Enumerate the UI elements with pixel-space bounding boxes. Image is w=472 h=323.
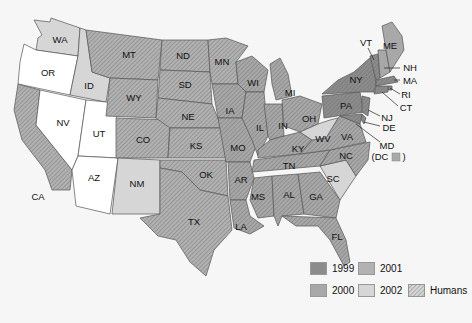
label-AZ: AZ (88, 172, 100, 183)
label-PA: PA (340, 100, 353, 111)
label-WV: WV (315, 133, 331, 144)
label-NM: NM (130, 178, 145, 189)
swatch-2001 (358, 262, 375, 275)
label-RI: RI (401, 89, 411, 100)
label-FL: FL (331, 231, 342, 242)
label-LA: LA (235, 221, 247, 232)
label-NV: NV (56, 117, 70, 128)
label-ME: ME (383, 40, 397, 51)
legend-label-humans: Humans (430, 285, 467, 296)
legend-item-2001: 2001 (358, 262, 402, 275)
swatch-2002 (358, 284, 375, 297)
label-ID: ID (84, 80, 94, 91)
label-MT: MT (122, 49, 136, 60)
legend-label-2001: 2001 (380, 263, 402, 274)
label-IA: IA (226, 105, 236, 116)
label-TX: TX (188, 216, 201, 227)
legend-label-1999: 1999 (332, 263, 354, 274)
label-DC: (DC (372, 151, 389, 162)
label-UT: UT (93, 128, 106, 139)
label-OK: OK (199, 169, 213, 180)
label-WY: WY (126, 92, 142, 103)
label-NY: NY (349, 74, 363, 85)
legend-item-humans: Humans (408, 284, 472, 297)
label-MA: MA (403, 75, 418, 86)
label-KY: KY (292, 143, 305, 154)
label-DC-close: ) (402, 151, 405, 162)
label-AL: AL (283, 189, 295, 200)
label-WI: WI (247, 77, 259, 88)
dc-swatch (392, 153, 400, 161)
label-GA: GA (309, 191, 323, 202)
label-KS: KS (190, 140, 203, 151)
state-AZ (72, 156, 118, 214)
legend-item-2002: 2002 (358, 284, 402, 297)
label-OR: OR (41, 67, 55, 78)
label-TN: TN (283, 160, 296, 171)
label-MD: MD (380, 140, 395, 151)
label-OH: OH (302, 113, 316, 124)
swatch-2000 (310, 284, 327, 297)
legend-item-1999: 1999 (310, 262, 354, 275)
swatch-1999 (310, 262, 327, 275)
label-NC: NC (339, 150, 353, 161)
label-NE: NE (181, 111, 194, 122)
label-IN: IN (278, 120, 288, 131)
label-NH: NH (403, 62, 417, 73)
legend-item-2000: 2000 (310, 284, 354, 297)
label-VT: VT (360, 37, 372, 48)
legend: 1999 2000 2001 2002 Humans (310, 262, 430, 316)
label-WA: WA (53, 34, 69, 45)
label-MO: MO (230, 142, 245, 153)
label-MN: MN (215, 56, 230, 67)
label-VA: VA (341, 131, 354, 142)
label-ND: ND (176, 50, 190, 61)
legend-label-2000: 2000 (332, 285, 354, 296)
swatch-humans-hatch (408, 284, 425, 297)
legend-label-2002: 2002 (380, 285, 402, 296)
label-MS: MS (251, 191, 265, 202)
label-SD: SD (178, 79, 191, 90)
label-CA: CA (31, 191, 45, 202)
label-DE: DE (382, 122, 395, 133)
label-AR: AR (234, 174, 247, 185)
label-IL: IL (256, 122, 264, 133)
label-SC: SC (326, 173, 339, 184)
label-MI: MI (285, 87, 296, 98)
label-CO: CO (136, 134, 150, 145)
label-CT: CT (400, 102, 413, 113)
